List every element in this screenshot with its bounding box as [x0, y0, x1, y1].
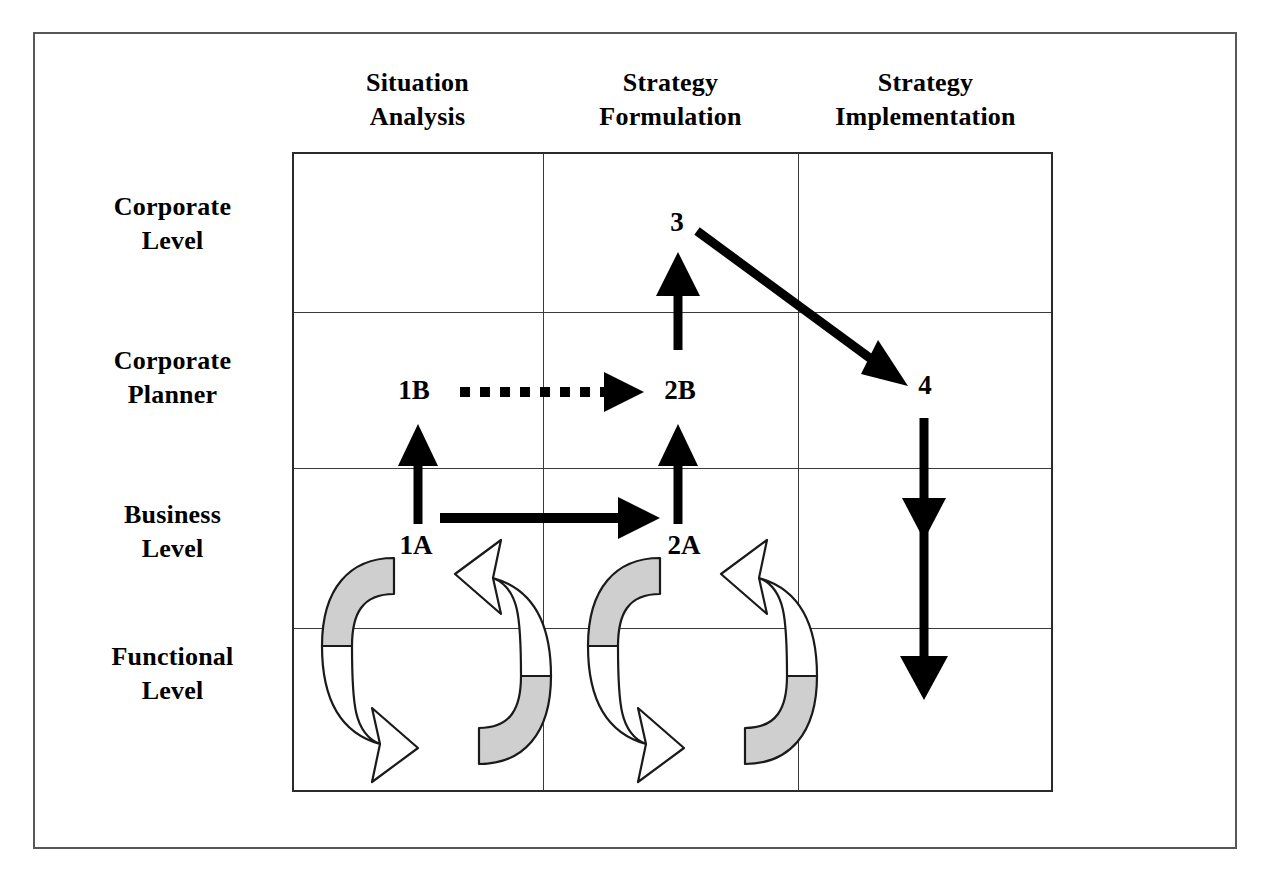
- grid-column-divider-2: [798, 154, 799, 790]
- node-label-1a: 1A: [380, 530, 452, 560]
- row-label-corporate-level: Corporate Level: [60, 190, 285, 258]
- column-header-line2: Formulation: [543, 100, 798, 134]
- node-label-4: 4: [894, 370, 956, 400]
- column-header-strategy-implementation: Strategy Implementation: [798, 66, 1053, 134]
- column-header-line1: Situation: [292, 66, 543, 100]
- grid-row-divider-1: [294, 312, 1051, 313]
- row-label-corporate-planner: Corporate Planner: [60, 344, 285, 412]
- row-label-line1: Corporate: [60, 344, 285, 378]
- row-label-line1: Functional: [55, 640, 290, 674]
- node-label-2a: 2A: [648, 530, 720, 560]
- grid-column-divider-1: [543, 154, 544, 790]
- column-header-situation-analysis: Situation Analysis: [292, 66, 543, 134]
- row-label-line2: Level: [60, 224, 285, 258]
- row-label-business-level: Business Level: [60, 498, 285, 566]
- grid-row-divider-3: [294, 628, 1051, 629]
- row-label-line1: Business: [60, 498, 285, 532]
- row-label-line2: Planner: [60, 378, 285, 412]
- row-label-functional-level: Functional Level: [55, 640, 290, 708]
- column-header-line1: Strategy: [543, 66, 798, 100]
- row-label-line2: Level: [60, 532, 285, 566]
- node-label-3: 3: [646, 207, 708, 237]
- matrix-grid: [292, 152, 1053, 792]
- column-header-line2: Analysis: [292, 100, 543, 134]
- diagram-page: Situation Analysis Strategy Formulation …: [0, 0, 1271, 882]
- row-label-line2: Level: [55, 674, 290, 708]
- column-header-line1: Strategy: [798, 66, 1053, 100]
- column-header-strategy-formulation: Strategy Formulation: [543, 66, 798, 134]
- node-label-1b: 1B: [378, 375, 450, 405]
- grid-row-divider-2: [294, 468, 1051, 469]
- node-label-2b: 2B: [644, 375, 716, 405]
- column-header-line2: Implementation: [798, 100, 1053, 134]
- row-label-line1: Corporate: [60, 190, 285, 224]
